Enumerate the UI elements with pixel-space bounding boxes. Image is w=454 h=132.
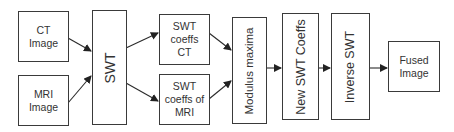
- fused-image-box: Fused Image: [388, 41, 440, 92]
- arrow-swt-to-coeffs-mri: [126, 83, 158, 101]
- swt-coeffs-mri-box: SWT coeffs of MRI: [159, 74, 210, 125]
- ct-image-box: CT Image: [18, 11, 69, 62]
- inverse-swt-box: Inverse SWT: [331, 13, 370, 120]
- inverse-swt-label: Inverse SWT: [344, 30, 358, 102]
- mri-image-label: MRI Image: [29, 88, 58, 114]
- swt-coeffs-ct-box: SWT coeffs CT: [159, 14, 210, 65]
- arrow-coeffs-mri-to-modulus: [209, 81, 231, 99]
- fused-image-label: Fused Image: [399, 54, 428, 80]
- modulus-maxima-label: Modulus maxima: [244, 27, 256, 114]
- arrow-swt-to-coeffs-ct: [126, 33, 158, 48]
- swt-box: SWT: [92, 10, 127, 125]
- arrow-coeffs-ct-to-modulus: [209, 33, 231, 50]
- mri-image-box: MRI Image: [18, 75, 69, 126]
- modulus-maxima-box: Modulus maxima: [232, 17, 267, 124]
- arrow-ct-to-swt: [68, 38, 91, 51]
- ct-image-label: CT Image: [29, 24, 58, 50]
- new-swt-coeffs-box: New SWT Coeffs: [282, 13, 319, 120]
- new-swt-coeffs-label: New SWT Coeffs: [294, 19, 308, 114]
- arrow-mri-to-swt: [68, 76, 91, 103]
- swt-label: SWT: [101, 52, 117, 83]
- swt-coeffs-mri-label: SWT coeffs of MRI: [165, 80, 205, 119]
- swt-coeffs-ct-label: SWT coeffs CT: [171, 20, 199, 59]
